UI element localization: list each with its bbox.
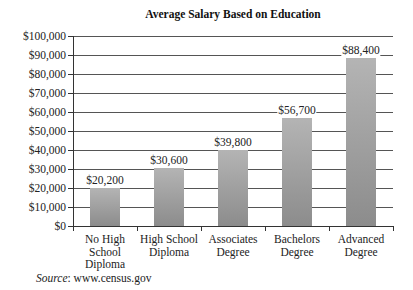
category-label: AssociatesDegree <box>201 233 265 258</box>
y-tick-label: $20,000 <box>29 182 66 194</box>
bar-value-label: $20,200 <box>85 174 124 186</box>
gridline <box>73 131 393 132</box>
category-label: AdvancedDegree <box>329 233 393 258</box>
source-url: : www.census.gov <box>68 272 152 284</box>
x-tick <box>329 226 330 231</box>
y-tick-label: $80,000 <box>29 68 66 80</box>
gridline <box>73 74 393 75</box>
source-note: Source: www.census.gov <box>36 272 151 284</box>
bar <box>218 150 248 226</box>
source-label: Source <box>36 272 68 284</box>
x-axis <box>68 226 393 227</box>
gridline <box>73 112 393 113</box>
y-tick-label: $70,000 <box>29 87 66 99</box>
bar-value-label: $30,600 <box>149 154 188 166</box>
bar <box>346 58 376 226</box>
category-label: No HighSchoolDiploma <box>73 233 137 271</box>
gridline <box>73 36 393 37</box>
bar <box>282 118 312 226</box>
y-tick-label: $30,000 <box>29 163 66 175</box>
bar-value-label: $56,700 <box>277 104 316 116</box>
y-tick-label: $50,000 <box>29 125 66 137</box>
y-tick-label: $40,000 <box>29 144 66 156</box>
bar-value-label: $88,400 <box>341 44 380 56</box>
y-axis <box>73 36 74 227</box>
y-tick-label: $10,000 <box>29 201 66 213</box>
category-label: BachelorsDegree <box>265 233 329 258</box>
y-tick-label: $90,000 <box>29 49 66 61</box>
y-tick-label: $0 <box>55 220 67 232</box>
y-tick-label: $100,000 <box>23 30 66 42</box>
x-tick <box>393 226 394 231</box>
gridline <box>73 93 393 94</box>
bar-value-label: $39,800 <box>213 136 252 148</box>
category-label: High SchoolDiploma <box>137 233 201 258</box>
x-tick <box>137 226 138 231</box>
bar <box>90 188 120 226</box>
x-tick <box>265 226 266 231</box>
x-tick <box>73 226 74 231</box>
y-tick-label: $60,000 <box>29 106 66 118</box>
chart-title: Average Salary Based on Education <box>73 8 393 20</box>
x-tick <box>201 226 202 231</box>
bar <box>154 168 184 226</box>
